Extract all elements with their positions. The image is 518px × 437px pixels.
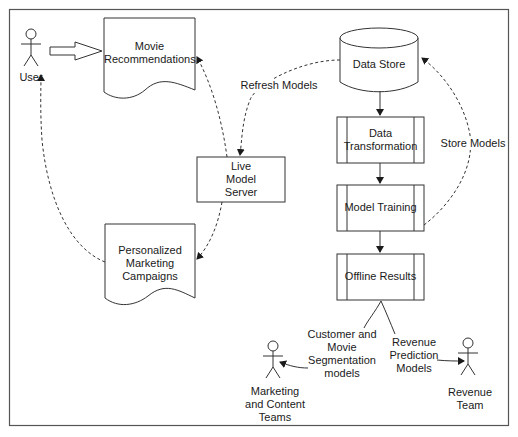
- server-to-recommendations-arrow: [197, 57, 227, 157]
- movie-recommendations-label: Movie Recommendations: [104, 40, 195, 66]
- refresh-models-arrow: [240, 60, 340, 155]
- data-transformation-label: Data Transformation: [337, 127, 424, 153]
- live-model-server-label: Live Model Server: [197, 160, 285, 199]
- marketing-to-user-arrow: [41, 75, 105, 262]
- server-to-marketing-arrow: [197, 202, 222, 259]
- model-training-label: Model Training: [337, 201, 424, 214]
- segmentation-models-label: Customer and Movie Segmentation models: [300, 328, 384, 380]
- revenue-team-actor-icon: [458, 338, 478, 375]
- marketing-team-label: Marketing and Content Teams: [240, 385, 310, 424]
- marketing-team-actor-icon: [263, 341, 283, 378]
- personalized-marketing-label: Personalized Marketing Campaigns: [105, 244, 195, 283]
- data-store-label: Data Store: [340, 58, 418, 71]
- offline-results-label: Offline Results: [337, 270, 424, 283]
- hollow-arrow-icon: [50, 42, 102, 60]
- revenue-team-label: Revenue Team: [443, 386, 497, 412]
- revenue-prediction-label: Revenue Prediction Models: [384, 336, 444, 375]
- refresh-models-label: Refresh Models: [236, 79, 322, 92]
- user-label: User: [14, 71, 48, 84]
- user-actor-icon: [21, 29, 41, 66]
- segmentation-line: [364, 301, 381, 328]
- store-models-label: Store Models: [440, 137, 506, 150]
